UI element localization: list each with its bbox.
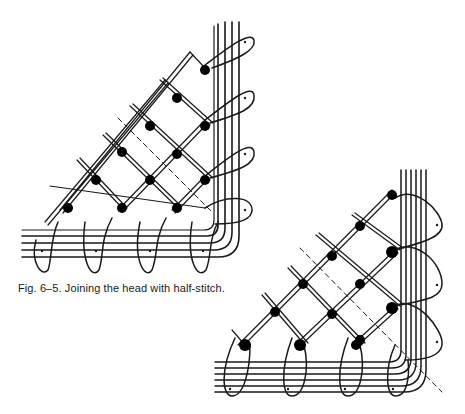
upper-left-corner-diagram — [22, 22, 254, 273]
figure-caption: Fig. 6–5. Joining the head with half-sti… — [18, 282, 225, 294]
lower-right-corner-diagram — [215, 170, 442, 396]
lace-diagram-figure — [0, 0, 465, 414]
